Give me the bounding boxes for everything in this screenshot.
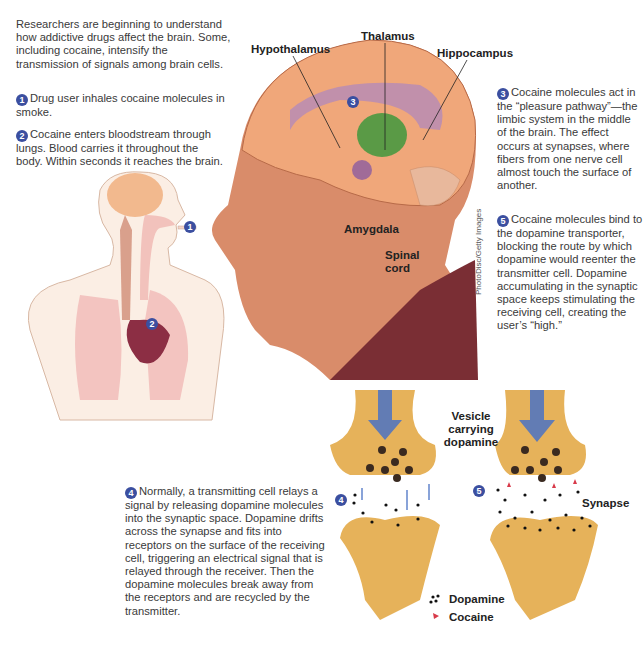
step-3-badge: 3	[497, 88, 509, 100]
cocaine-legend-icon	[433, 613, 439, 619]
figure-badge-5: 5	[473, 485, 485, 497]
synapse-normal	[330, 390, 440, 620]
label-amygdala: Amygdala	[344, 223, 399, 236]
step-5-text: 5Cocaine molecules bind to the dopamine …	[497, 213, 643, 333]
figure-badge-2: 2	[146, 318, 158, 330]
step-1-text: 1Drug user inhales cocaine molecules in …	[16, 92, 226, 119]
dopamine-legend-icon	[429, 594, 439, 603]
figure-badge-1: 1	[184, 221, 196, 233]
step-1-badge: 1	[16, 94, 28, 106]
head-illustration	[212, 40, 478, 380]
figure-badge-3: 3	[347, 96, 359, 108]
legend-dopamine-label: Dopamine	[449, 593, 505, 606]
label-synapse: Synapse	[582, 497, 629, 510]
legend-cocaine-label: Cocaine	[449, 611, 494, 624]
label-spinal-cord: Spinal cord	[385, 249, 425, 275]
step-2-text: 2Cocaine enters bloodstream through lung…	[16, 128, 226, 168]
intro-text: Researchers are beginning to understand …	[16, 18, 231, 71]
photo-credit: PhotoDisc/Getty Images	[474, 209, 483, 295]
label-hippocampus: Hippocampus	[437, 47, 513, 60]
step-5-badge: 5	[497, 215, 509, 227]
step-4-text: 4Normally, a transmitting cell relays a …	[125, 485, 330, 618]
figure-badge-4: 4	[335, 494, 347, 506]
legend-symbols	[429, 594, 439, 619]
step-3-text: 3Cocaine molecules act in the “pleasure …	[497, 86, 643, 192]
label-vesicle: Vesicle carrying dopamine	[441, 410, 501, 449]
label-thalamus: Thalamus	[361, 30, 415, 43]
step-2-badge: 2	[16, 130, 28, 142]
body-diagram	[28, 172, 224, 420]
label-hypothalamus: Hypothalamus	[251, 43, 330, 56]
step-4-badge: 4	[125, 487, 137, 499]
